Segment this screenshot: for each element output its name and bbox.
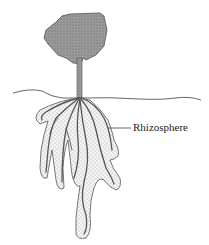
tree-canopy — [44, 13, 107, 64]
stem — [77, 58, 82, 98]
soil-surface-line — [13, 90, 201, 100]
rhizosphere-label: Rhizosphere — [133, 121, 188, 133]
rhizosphere-zone — [36, 98, 121, 239]
